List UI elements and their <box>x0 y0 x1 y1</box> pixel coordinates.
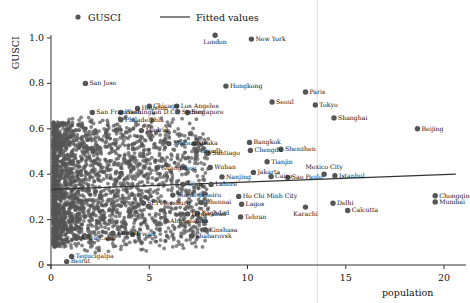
fitted-values-line <box>52 174 456 189</box>
data-point-marker[interactable] <box>185 211 190 216</box>
x-axis-tick-label: 20 <box>424 273 464 283</box>
data-point-marker[interactable] <box>199 200 204 205</box>
data-point-marker[interactable] <box>269 99 274 104</box>
data-point-label: Shenzhen <box>285 146 316 152</box>
x-axis-title: population <box>382 288 433 298</box>
data-point-marker[interactable] <box>238 214 243 219</box>
data-point-marker[interactable] <box>264 159 269 164</box>
data-point-label: Shanghai <box>338 115 368 121</box>
data-point-marker[interactable] <box>139 128 144 133</box>
data-point-label: Beirut <box>71 258 91 264</box>
data-point-label: Wuhan <box>214 164 236 170</box>
data-point-marker[interactable] <box>118 117 123 122</box>
y-axis-tick-label: 0 <box>0 260 44 270</box>
data-point-marker[interactable] <box>249 36 254 41</box>
data-point-label: Sao Paulo <box>292 174 323 180</box>
data-point-label: New York <box>255 36 285 42</box>
data-point-label: Lagos <box>246 201 265 207</box>
data-point-marker[interactable] <box>433 199 438 204</box>
data-point-label: Osaka <box>198 140 217 146</box>
data-point-label: Bangkok <box>253 139 280 145</box>
data-point-marker[interactable] <box>433 193 438 198</box>
data-point-label: Cairo <box>275 173 292 179</box>
data-point-label: San Jose <box>89 80 116 86</box>
x-axis-tick-label: 5 <box>129 273 169 283</box>
data-point-label: Ahmedabad <box>170 218 207 224</box>
data-point-marker[interactable] <box>239 202 244 207</box>
data-point-marker[interactable] <box>303 89 308 94</box>
data-point-label: St.Petersburg <box>147 200 190 206</box>
data-point-label: London <box>203 39 227 45</box>
data-point-marker[interactable] <box>248 148 253 153</box>
data-point-marker[interactable] <box>154 165 159 170</box>
data-point-label: Santiago <box>212 150 240 156</box>
data-point-label: Seoul <box>276 99 294 105</box>
data-point-label: Karachi <box>293 211 317 217</box>
data-point-label: Hyderabad <box>192 211 227 217</box>
data-point-label: Mumbai <box>439 199 465 205</box>
data-point-label: Madrid <box>145 127 168 133</box>
data-point-marker[interactable] <box>332 173 337 178</box>
y-axis-tick-label: 0.4 <box>0 169 44 179</box>
data-point-marker[interactable] <box>64 259 69 264</box>
data-point-marker[interactable] <box>313 102 318 107</box>
data-point-label: Mexico City <box>305 164 342 170</box>
data-point-label: khabarovsk <box>195 233 231 239</box>
scatter-chart-figure: GUSCI population GUSCI Fitted values 00.… <box>0 0 470 303</box>
data-point-marker[interactable] <box>189 233 194 238</box>
data-point-label: Philadelphia <box>125 117 164 123</box>
data-point-marker[interactable] <box>166 141 171 146</box>
y-axis-tick-label: 0.6 <box>0 124 44 134</box>
data-point-marker[interactable] <box>170 192 175 197</box>
data-point-marker[interactable] <box>74 236 79 241</box>
data-point-label: Washington D.C. <box>125 109 177 115</box>
data-point-marker[interactable] <box>331 115 336 120</box>
data-point-marker[interactable] <box>208 165 213 170</box>
data-point-marker[interactable] <box>141 201 146 206</box>
data-point-label: Chengdu <box>254 147 282 153</box>
data-point-marker[interactable] <box>163 218 168 223</box>
x-axis-tick-label: 15 <box>326 273 366 283</box>
data-point-label: Tianjin <box>271 159 293 165</box>
data-point-label: Ho Chi Minh City <box>243 193 298 199</box>
data-point-marker[interactable] <box>208 182 213 187</box>
data-point-marker[interactable] <box>223 83 228 88</box>
data-point-label: Istanbul <box>339 173 365 179</box>
data-point-label: Irwad <box>137 231 155 237</box>
data-point-label: Nanjing <box>226 174 251 180</box>
data-point-label: Beijing <box>421 126 443 132</box>
data-point-label: Kuwait <box>117 230 139 236</box>
data-point-label: Delhi <box>337 200 354 206</box>
y-axis-tick-label: 1.0 <box>0 33 44 43</box>
data-point-label: Xi'an <box>187 181 203 187</box>
y-axis-tick-label: 0.2 <box>0 215 44 225</box>
x-axis-tick-label: 10 <box>228 273 268 283</box>
data-point-label: Astra Cann <box>81 235 116 241</box>
y-axis-title: GUSCI <box>11 23 21 83</box>
data-point-label: Chennai <box>205 199 231 205</box>
data-point-label: Tokyo <box>319 102 337 108</box>
data-point-marker[interactable] <box>247 140 252 145</box>
data-point-marker[interactable] <box>251 170 256 175</box>
data-point-label: Paris <box>309 89 325 95</box>
legend-marker-gusci <box>75 14 80 19</box>
data-point-marker[interactable] <box>180 182 185 187</box>
data-point-marker[interactable] <box>90 110 95 115</box>
data-point-marker[interactable] <box>345 208 350 213</box>
data-point-marker[interactable] <box>236 194 241 199</box>
legend-label-fitted-values: Fitted values <box>196 13 259 23</box>
data-point-label: Hongkong <box>230 83 263 89</box>
data-point-label: Calcutta <box>352 207 379 213</box>
data-point-marker[interactable] <box>415 126 420 131</box>
data-point-marker[interactable] <box>194 149 199 154</box>
data-point-marker[interactable] <box>219 174 224 179</box>
data-point-label: Singapore <box>192 109 224 115</box>
data-point-marker[interactable] <box>83 81 88 86</box>
data-point-marker[interactable] <box>330 201 335 206</box>
data-point-label: Lahore <box>215 181 237 187</box>
data-point-label: Tehran <box>245 214 267 220</box>
legend-label-gusci: GUSCI <box>88 13 121 23</box>
y-axis-tick-label: 0.8 <box>0 78 44 88</box>
x-axis-tick-label: 0 <box>31 273 71 283</box>
data-point-label: Guangzhou <box>161 165 197 171</box>
